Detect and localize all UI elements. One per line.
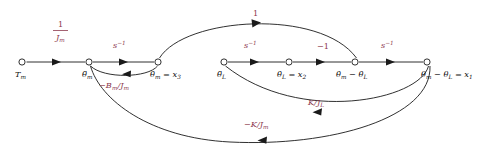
gain-label-minus-K-over-Jm: −K/Jm: [244, 119, 269, 130]
gain-label-minus-one: −1: [317, 41, 329, 51]
node-thL-dot[interactable]: [286, 59, 292, 65]
arrowhead-thmddot-to-thmdot: [119, 58, 128, 65]
edge-diff-to-thmddot: [91, 66, 431, 143]
arrowhead-Tm-to-thmddot: [52, 58, 61, 65]
gain-label-s-inv-3: s−1: [381, 40, 394, 50]
node-thm-dot[interactable]: [155, 59, 161, 65]
node-Tm[interactable]: [19, 59, 25, 65]
arrowhead-diff-to-thLddot: [313, 108, 323, 115]
arrowhead-thLddot-to-thLdot: [250, 58, 259, 65]
node-label-thm-ddot: θ̈m: [82, 69, 93, 80]
node-label-thL-dot: θ̇L = x2: [277, 69, 306, 80]
gain-label-s-inv-2: s−1: [244, 40, 257, 50]
edge-diff-to-thLddot: [226, 66, 429, 101]
node-diff-dot[interactable]: [352, 59, 358, 65]
gain-label-one-over-Jm: 1 Jm: [53, 19, 68, 43]
node-thL-ddot[interactable]: [221, 59, 227, 65]
signal-flow-graph-figure: Tm θ̈m θ̇m = x3 θ̈L θ̇L = x2 θ̇m − θ̇L θ…: [0, 0, 489, 154]
signal-flow-graph-canvas: Tm θ̈m θ̇m = x3 θ̈L θ̇L = x2 θ̇m − θ̇L θ…: [0, 0, 489, 154]
gain-label-K-over-JL: K/JL: [307, 97, 324, 108]
arrowhead-diffdot-to-diff: [386, 58, 395, 65]
gain-label-minus-Bm-over-Jm: −Bm/Jm: [99, 80, 129, 91]
gain-one-over-Jm-numerator: 1: [58, 19, 63, 29]
node-label-diff-dot: θ̇m − θ̇L: [336, 69, 367, 80]
node-label-thm-dot: θ̇m = x3: [150, 69, 181, 80]
arrowhead-thmdot-to-thmddot: [122, 71, 131, 78]
gain-label-unity: 1: [253, 8, 258, 18]
arrowhead-thmdot-to-diffdot: [252, 19, 262, 27]
node-label-diff: θm − θL = x1: [421, 69, 473, 80]
gain-label-s-inv-1: s−1: [113, 40, 126, 50]
node-diff[interactable]: [424, 59, 430, 65]
node-label-Tm: Tm: [15, 69, 26, 80]
node-label-thL-ddot: θ̈L: [217, 69, 226, 80]
gain-one-over-Jm-denominator: Jm: [54, 32, 65, 43]
node-thm-ddot[interactable]: [86, 59, 92, 65]
arrowhead-thLdot-to-diffdot: [316, 58, 325, 65]
